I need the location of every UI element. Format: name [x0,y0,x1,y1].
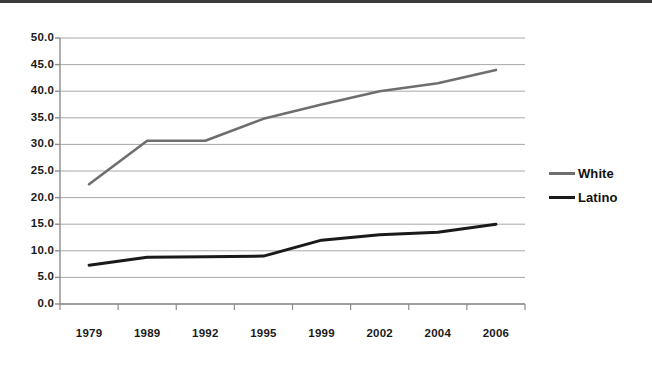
y-axis-label: 15.0 [8,218,54,229]
y-axis-label: 5.0 [8,271,54,282]
y-axis-label: 35.0 [8,112,54,123]
y-axis-label: 0.0 [8,298,54,309]
y-axis-label: 20.0 [8,192,54,203]
legend-label: Latino [578,191,618,204]
y-axis-label: 50.0 [8,32,54,43]
legend-swatch-icon [549,196,575,199]
legend-label: White [578,167,614,180]
series-line-latino [89,224,496,265]
x-axis-label: 1995 [235,328,291,339]
x-axis-label: 1999 [294,328,350,339]
x-axis-label: 2002 [352,328,408,339]
x-axis-label: 2006 [468,328,524,339]
series-line-white [89,70,496,184]
x-axis-label: 1989 [119,328,175,339]
legend-item-latino[interactable]: Latino [549,187,618,207]
line-chart [0,0,652,366]
legend-swatch-icon [549,172,575,175]
y-axis-label: 45.0 [8,59,54,70]
y-axis-label: 25.0 [8,165,54,176]
x-axis-label: 1979 [61,328,117,339]
y-axis-label: 10.0 [8,245,54,256]
x-axis-label: 1992 [177,328,233,339]
y-axis-label: 30.0 [8,138,54,149]
y-axis-label: 40.0 [8,85,54,96]
y-axis [55,38,60,304]
x-axis [60,304,525,310]
x-axis-label: 2004 [410,328,466,339]
legend-item-white[interactable]: White [549,163,614,183]
